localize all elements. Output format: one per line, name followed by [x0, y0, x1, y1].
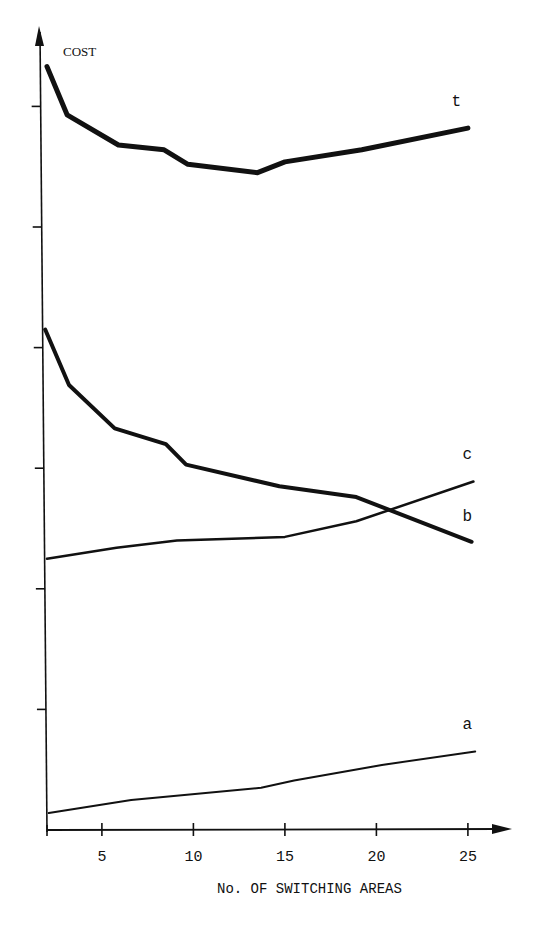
x-tick-label: 5: [97, 849, 106, 866]
series-line-t: [47, 67, 468, 173]
series-line-c: [47, 482, 473, 559]
x-axis-arrow-icon: [492, 824, 512, 834]
y-axis-line: [40, 32, 47, 832]
series-lines: [45, 67, 475, 814]
series-label-a: a: [462, 716, 472, 734]
x-tick-label: 20: [367, 849, 385, 866]
series-label-c: c: [462, 446, 472, 464]
x-tick-label: 15: [276, 849, 294, 866]
x-tick-label: 25: [459, 849, 477, 866]
x-axis-title: No. OF SWITCHING AREAS: [217, 881, 402, 897]
series-label-b: b: [462, 508, 472, 526]
series-line-b: [45, 330, 471, 542]
series-label-t: t: [451, 93, 461, 111]
series-line-a: [49, 752, 475, 814]
y-axis-title: COST: [63, 44, 96, 59]
y-axis-arrow-icon: [35, 26, 44, 46]
series-labels: tbca: [451, 93, 472, 733]
x-axis-line: [47, 829, 500, 830]
x-tick-label: 10: [184, 849, 202, 866]
cost-vs-switching-areas-chart: 510152025 tbca COST No. OF SWITCHING ARE…: [0, 0, 544, 935]
axes: 510152025: [32, 26, 512, 866]
